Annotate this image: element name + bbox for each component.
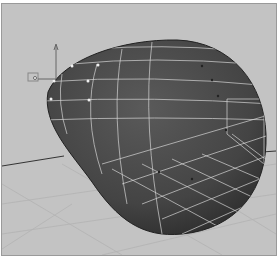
horizon-axis [2, 156, 64, 166]
mesh-object [47, 40, 266, 235]
move-tool-gizmo [28, 44, 58, 81]
scene [2, 4, 276, 255]
3d-viewport[interactable] [1, 3, 277, 256]
